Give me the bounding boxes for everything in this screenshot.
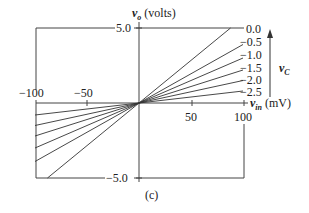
- y-tick-top: 5.0: [116, 21, 131, 35]
- chart: vo (volts) 5.0 −5.0 −100 −50 50 100 vin …: [0, 0, 309, 213]
- x-tick-m50: −50: [74, 86, 93, 100]
- y-tick-bottom: −5.0: [106, 171, 128, 185]
- figure-caption: (c): [145, 188, 158, 202]
- x-tick-m100: −100: [19, 86, 44, 100]
- series-label: −2.5: [240, 85, 262, 99]
- series-label: −1.0: [240, 48, 262, 62]
- x-tick-100: 100: [234, 110, 252, 124]
- y-axis-label: vo (volts): [132, 6, 176, 22]
- legend-title: vC: [279, 61, 290, 77]
- series-label: −0.5: [240, 35, 262, 49]
- legend-arrow-icon: [267, 29, 273, 97]
- series-labels: 0.0 −0.5 −1.0 −1.5 −2.0 −2.5: [240, 22, 262, 99]
- x-tick-50: 50: [185, 110, 197, 124]
- series-label: 0.0: [246, 22, 261, 36]
